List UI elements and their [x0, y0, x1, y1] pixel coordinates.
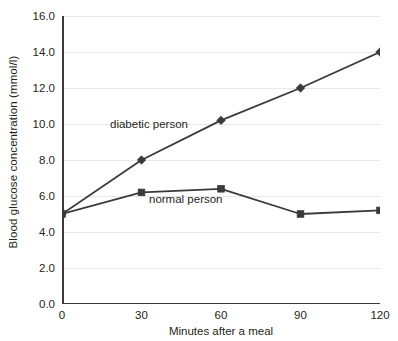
y-axis-tick-label: 10.0	[19, 118, 55, 130]
x-axis-title: Minutes after a meal	[62, 324, 380, 338]
series-annotation: diabetic person	[110, 118, 188, 131]
y-axis-tick-label: 8.0	[19, 154, 55, 166]
x-axis-tick-label: 30	[122, 308, 162, 322]
x-axis-tick-labels: 0306090120	[62, 308, 380, 324]
glucose-line-chart: Blood glucose concentration (mmol/l) 0.0…	[0, 0, 398, 341]
y-axis-tick-label: 6.0	[19, 190, 55, 202]
data-point-marker	[217, 116, 225, 124]
data-point-marker	[218, 186, 225, 193]
x-axis-tick-label: 0	[42, 308, 82, 322]
data-point-marker	[296, 84, 304, 92]
x-axis-tick-label: 120	[360, 308, 398, 322]
y-axis-tick-labels: 0.02.04.06.08.010.012.014.016.0	[19, 16, 55, 304]
data-point-marker	[376, 48, 380, 56]
gridlines	[62, 16, 380, 268]
data-point-marker	[377, 207, 380, 214]
y-axis-tick-label: 14.0	[19, 46, 55, 58]
x-axis-tick-label: 60	[201, 308, 241, 322]
data-point-marker	[138, 189, 145, 196]
plot-area: diabetic personnormal person	[62, 16, 380, 304]
y-axis-tick-label: 4.0	[19, 226, 55, 238]
y-axis-tick-label: 16.0	[19, 10, 55, 22]
x-axis-tick-label: 90	[281, 308, 321, 322]
data-point-marker	[62, 211, 65, 218]
y-axis-tick-label: 12.0	[19, 82, 55, 94]
series-annotation: normal person	[149, 193, 223, 206]
data-point-marker	[297, 211, 304, 218]
y-axis-tick-label: 2.0	[19, 262, 55, 274]
plot-svg	[62, 16, 380, 304]
